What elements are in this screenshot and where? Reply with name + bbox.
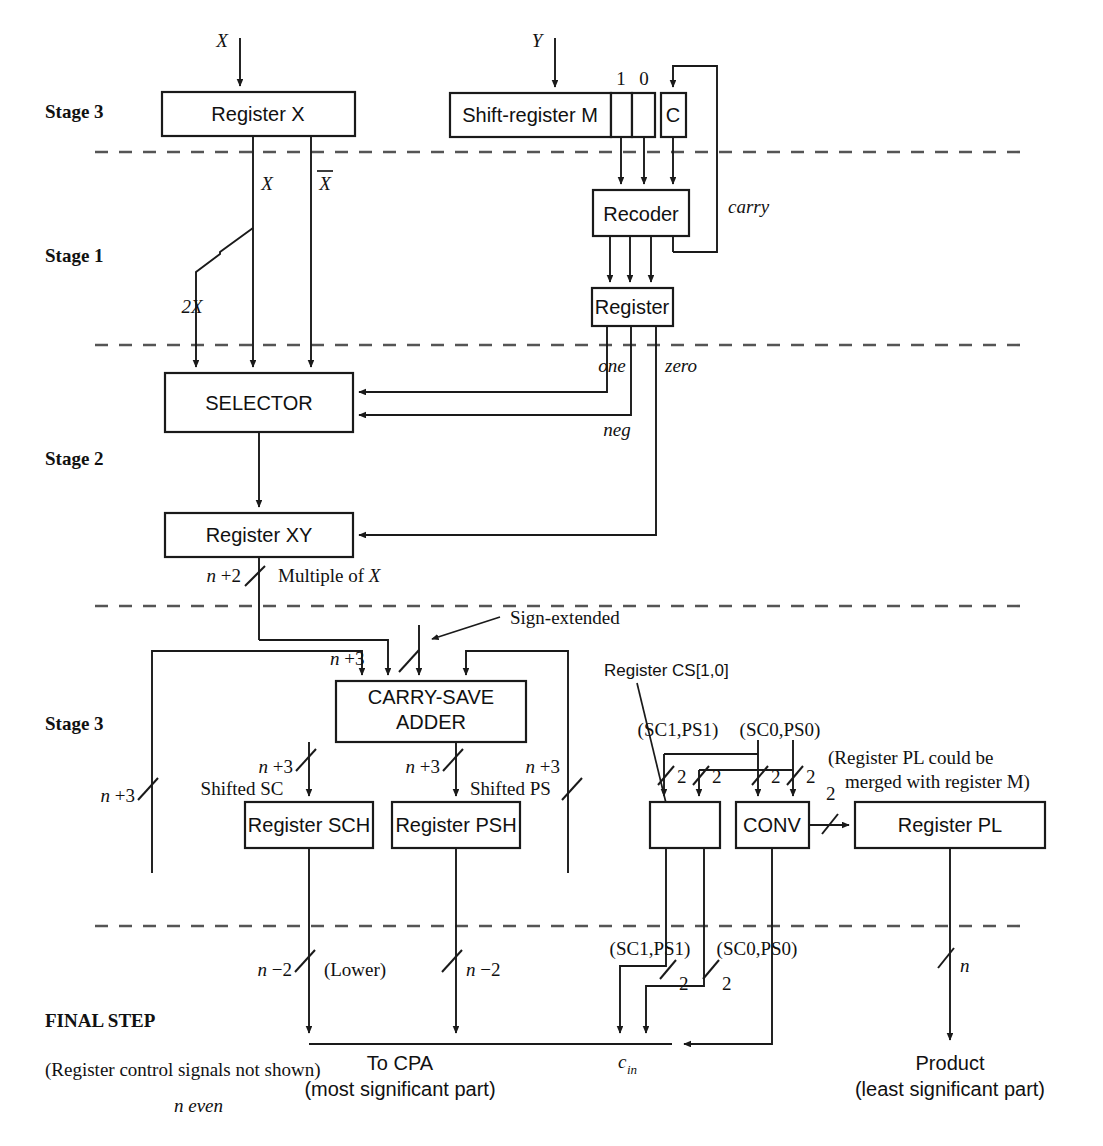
neg-wire: [359, 326, 631, 415]
selector-label: SELECTOR: [205, 392, 312, 414]
multiple-to-csa-wire: [259, 640, 388, 675]
lower-label: (Lower): [324, 959, 386, 981]
bus-n-plus-3-sc-label: n +3: [259, 756, 293, 777]
bus-2-d-label: 2: [806, 766, 816, 787]
to-cpa-line2: (most significant part): [304, 1078, 495, 1100]
input-y-label: Y: [532, 30, 545, 51]
bus-2-e-label: 2: [679, 973, 689, 994]
two-x-label: 2X: [181, 296, 204, 317]
slash-n-plus-3-left: [138, 778, 158, 800]
carry-flipflop-c-label: C: [666, 104, 680, 126]
sc0-ps0-upper-label: (SC0,PS0): [740, 719, 821, 741]
slash-ps: [443, 749, 463, 771]
bus-n-plus-3-csa-label: n +3: [330, 648, 364, 669]
one-wire: [359, 326, 607, 392]
conv-label: CONV: [743, 814, 801, 836]
slash-cs-3: [752, 766, 768, 785]
slash-n-plus-3-right: [562, 778, 582, 800]
carry-save-adder-line1: CARRY-SAVE: [368, 686, 494, 708]
m-cell-1[interactable]: [611, 93, 632, 137]
register-xy-label: Register XY: [206, 524, 313, 546]
stage-label-3a: Stage 3: [45, 101, 104, 122]
m-cell-1-bit-label: 1: [616, 68, 626, 89]
final-step-label: FINAL STEP: [45, 1010, 156, 1031]
bus-n-product-label: n: [960, 955, 970, 976]
bus-2-b-label: 2: [712, 766, 722, 787]
input-x-label: X: [215, 30, 229, 51]
carry-save-adder-line2: ADDER: [396, 711, 466, 733]
bus-n-plus-3-right-label: n +3: [526, 756, 560, 777]
x-complement-label: X: [317, 171, 333, 194]
slash-sc: [296, 749, 316, 771]
slash-n-minus-2-ps: [442, 950, 462, 972]
x-output-wires: [196, 136, 311, 367]
bus-2-c-label: 2: [771, 766, 781, 787]
slash-conv-out: [822, 814, 838, 834]
m-cell-0[interactable]: [632, 93, 655, 137]
slash-low-1: [660, 960, 676, 979]
slash-low-2: [703, 960, 719, 979]
sc1-ps1-upper-label: (SC1,PS1): [638, 719, 719, 741]
input-wires: [240, 38, 555, 87]
bus-2-conv-out-label: 2: [826, 783, 836, 804]
sign-extended-pointer: [432, 617, 500, 639]
recode-register-label: Register: [595, 296, 670, 318]
stage-label-1: Stage 1: [45, 245, 104, 266]
recoder-output-wires: [610, 236, 651, 282]
slash-n-product: [938, 948, 954, 968]
sign-extend-wires: [399, 617, 500, 675]
figure-canvas: Stage 3 Stage 1 Stage 2 Stage 3 FINAL ST…: [0, 0, 1103, 1146]
pl-merge-note-line2: merged with register M): [845, 771, 1030, 793]
bus-n-plus-3-ps-label: n +3: [406, 756, 440, 777]
pl-merge-note-line1: (Register PL could be: [828, 747, 994, 769]
x-true-label: X: [260, 173, 274, 194]
bus-2-f-label: 2: [722, 973, 732, 994]
carry-in-text: c: [618, 1051, 627, 1072]
one-label: one: [598, 355, 625, 376]
to-cpa-line1: To CPA: [367, 1052, 434, 1074]
recoder-input-wires: [621, 137, 673, 184]
sc0-ps0-lower-label: (SC0,PS0): [717, 938, 798, 960]
n-even-label: n even: [174, 1095, 223, 1116]
shifted-ps-label: Shifted PS: [470, 778, 551, 799]
conv-output-wires: [809, 814, 849, 834]
register-cs-caption: Register CS[1,0]: [604, 661, 729, 680]
slash-cs-4: [787, 766, 803, 785]
product-line1: Product: [916, 1052, 985, 1074]
shift-register-m-label: Shift-register M: [462, 104, 598, 126]
bus-2-a-label: 2: [677, 766, 687, 787]
neg-label: neg: [603, 419, 630, 440]
register-cs[interactable]: [650, 802, 720, 848]
slash-n-plus-2: [245, 566, 265, 586]
bus-n-plus-3-left-label: n +3: [101, 785, 135, 806]
slash-n-plus-3-csa: [399, 650, 419, 672]
carry-in-sub: in: [627, 1062, 637, 1077]
stage-label-2: Stage 2: [45, 448, 104, 469]
shifted-sc-label: Shifted SC: [201, 778, 284, 799]
x-complement-text: X: [318, 173, 332, 194]
sc1-ps1-lower-label: (SC1,PS1): [610, 938, 691, 960]
carry-label: carry: [728, 196, 770, 217]
slash-n-minus-2-sc: [295, 950, 315, 972]
bus-n-plus-2-label: n +2: [207, 565, 241, 586]
product-wires: [938, 848, 954, 1040]
slash-cs-2: [693, 766, 709, 785]
bus-n-minus-2-sc-label: n −2: [258, 959, 292, 980]
carry-in-label: c in: [618, 1051, 637, 1077]
bus-n-minus-2-ps-label: n −2: [466, 959, 500, 980]
register-pl-label: Register PL: [898, 814, 1003, 836]
zero-label: zero: [664, 355, 697, 376]
m-cell-0-bit-label: 0: [639, 68, 649, 89]
register-sch-label: Register SCH: [248, 814, 370, 836]
multiple-of-x-label: Multiple of X: [278, 565, 382, 586]
register-x-label: Register X: [211, 103, 304, 125]
stage-label-3b: Stage 3: [45, 713, 104, 734]
recoder-label: Recoder: [603, 203, 679, 225]
lower-output-wires: [295, 848, 462, 1033]
register-psh-label: Register PSH: [395, 814, 516, 836]
control-note-label: (Register control signals not shown): [45, 1059, 320, 1081]
sign-extended-label: Sign-extended: [510, 607, 620, 628]
product-line2: (least significant part): [855, 1078, 1045, 1100]
